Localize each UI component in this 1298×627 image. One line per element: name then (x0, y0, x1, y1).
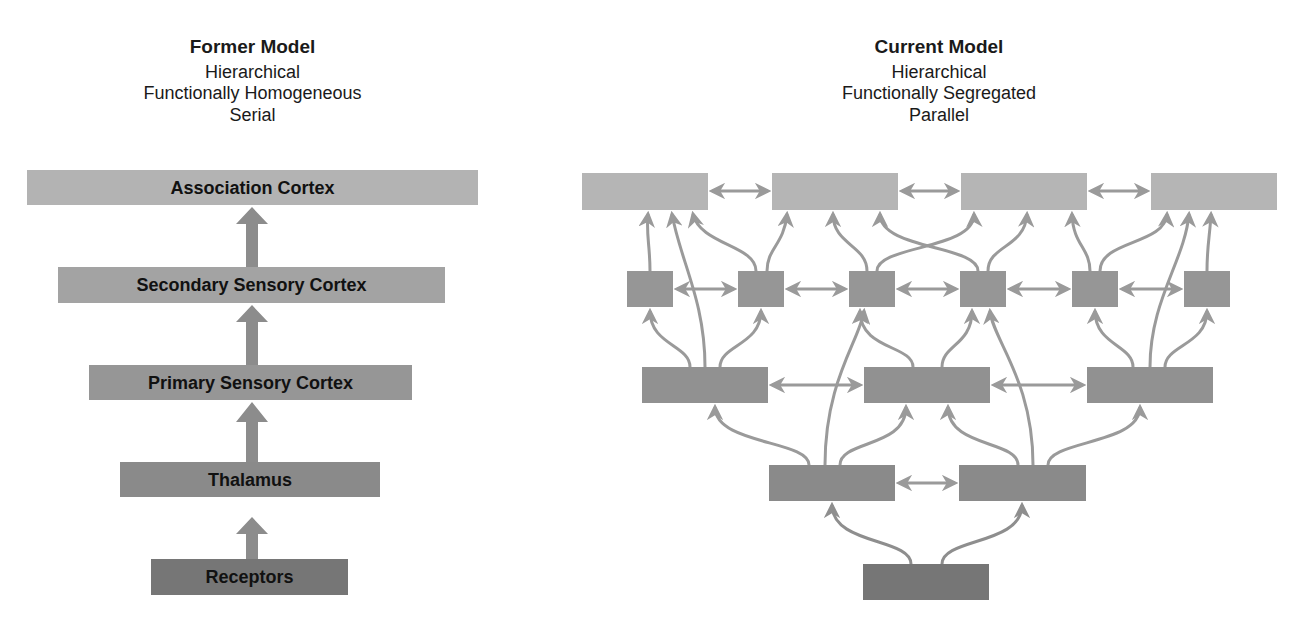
former-model-diagram: Association CortexSecondary Sensory Cort… (27, 170, 478, 595)
level-box-secondary-sensory-cortex: Secondary Sensory Cortex (58, 267, 445, 303)
area-box-row2-2 (738, 271, 784, 307)
level-box-association-cortex: Association Cortex (27, 170, 478, 205)
block-arrow-icon (236, 305, 268, 365)
area-box-row1-2 (772, 173, 898, 210)
area-box-row3-2 (864, 367, 990, 403)
area-box-row1-4 (1151, 173, 1277, 210)
area-box-row5-1 (863, 564, 989, 600)
area-box-row2-3 (849, 271, 895, 307)
block-arrow-icon (236, 207, 268, 267)
block-arrow-icon (236, 517, 268, 559)
area-box-row3-3 (1087, 367, 1213, 403)
area-box-row1-3 (961, 173, 1087, 210)
area-box-row4-1 (769, 465, 895, 501)
level-label: Primary Sensory Cortex (148, 373, 353, 393)
area-box-row4-2 (959, 465, 1086, 501)
level-label: Thalamus (208, 470, 292, 490)
level-label: Association Cortex (170, 178, 334, 198)
level-box-primary-sensory-cortex: Primary Sensory Cortex (89, 365, 412, 400)
area-box-row3-1 (642, 367, 768, 403)
current-model-diagram (582, 173, 1277, 600)
diagram-canvas: Association CortexSecondary Sensory Cort… (0, 0, 1298, 627)
area-box-row2-4 (960, 271, 1006, 307)
area-box-row2-1 (627, 271, 673, 307)
level-box-thalamus: Thalamus (120, 462, 380, 497)
area-box-row2-5 (1072, 271, 1118, 307)
area-box-row2-6 (1184, 271, 1230, 307)
block-arrow-icon (236, 402, 268, 462)
level-label: Receptors (205, 567, 293, 587)
level-box-receptors: Receptors (151, 559, 348, 595)
level-label: Secondary Sensory Cortex (136, 275, 366, 295)
area-box-row1-1 (582, 173, 708, 210)
